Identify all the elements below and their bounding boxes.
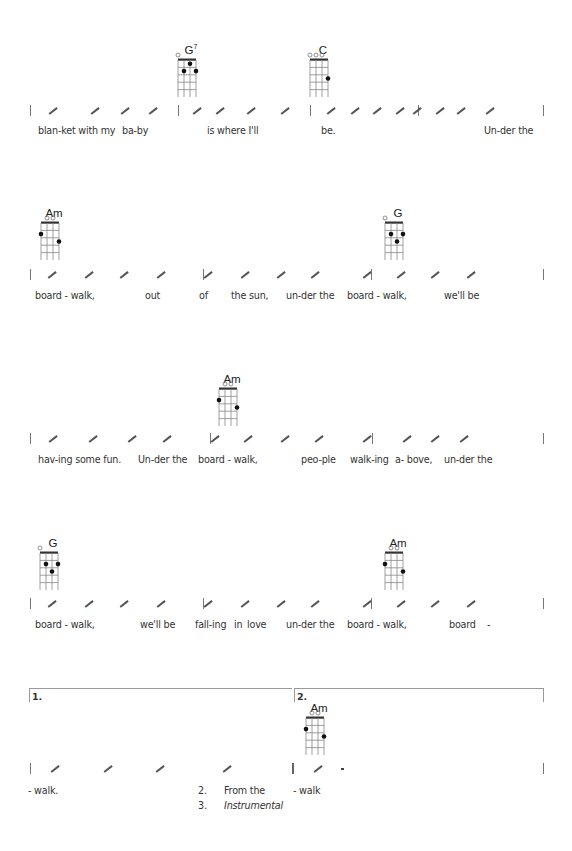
- bar-line: [30, 598, 31, 609]
- beat-slash: [431, 271, 440, 278]
- beat-slash: [436, 107, 445, 114]
- beat-slash: [211, 435, 220, 442]
- lyric-text: blan-ket with my: [38, 125, 115, 136]
- beat-slash: [128, 435, 137, 442]
- lyric-text: board - walk,: [35, 619, 95, 630]
- beat-slash: [457, 107, 466, 114]
- beat-slash: [403, 435, 412, 442]
- lyric-text: Un-der the: [484, 125, 533, 136]
- beat-slash: [397, 271, 406, 278]
- volta-number: 1.: [32, 691, 42, 702]
- lyric-text: fall-ing: [195, 619, 226, 630]
- lyric-text: Un-der the: [138, 454, 187, 465]
- volta-bracket: [294, 688, 543, 689]
- fretboard-icon: [302, 700, 338, 759]
- lyric-text: love: [247, 619, 266, 630]
- beat-slash: [157, 271, 166, 278]
- whole-rest: [341, 768, 344, 770]
- beat-slash: [396, 107, 405, 114]
- beat-slash: [413, 107, 422, 114]
- lyric-text: - walk: [293, 785, 320, 796]
- lyric-text: walk-ing: [350, 454, 389, 465]
- bar-line: [178, 105, 179, 116]
- lyric-text: we'll be: [140, 619, 175, 630]
- fretboard-icon: [306, 42, 342, 101]
- lyric-text: board - walk,: [347, 290, 407, 301]
- beat-slash: [157, 600, 166, 607]
- beat-slash: [247, 107, 256, 114]
- beat-slash: [460, 435, 469, 442]
- beat-slash: [48, 600, 57, 607]
- fretboard-icon: [36, 535, 72, 594]
- beat-slash: [120, 271, 129, 278]
- repeat-bar-line: [292, 763, 294, 774]
- bar-line: [30, 433, 31, 444]
- lyric-text: board - walk,: [347, 619, 407, 630]
- lyric-text: we'll be: [444, 290, 479, 301]
- beat-slash: [277, 271, 286, 278]
- beat-slash: [363, 435, 372, 442]
- fretboard-icon: [37, 205, 73, 264]
- beat-slash: [467, 600, 476, 607]
- beat-slash: [277, 600, 286, 607]
- beat-slash: [49, 107, 58, 114]
- bar-line: [543, 433, 544, 444]
- lyric-text: peo-ple: [301, 454, 336, 465]
- beat-slash: [311, 600, 320, 607]
- volta-bracket-edge: [543, 688, 544, 702]
- beat-slash: [48, 271, 57, 278]
- lyric-text: of: [199, 290, 208, 301]
- bar-line: [30, 269, 31, 280]
- bar-line: [372, 433, 373, 444]
- fretboard-icon: [381, 205, 417, 264]
- beat-slash: [397, 600, 406, 607]
- bar-line: [543, 105, 544, 116]
- lyric-text: - walk.: [28, 785, 58, 796]
- beat-slash: [431, 600, 440, 607]
- lyric-text: board - walk,: [198, 454, 258, 465]
- bar-line: [543, 269, 544, 280]
- beat-slash: [149, 107, 158, 114]
- lyric-text: a- bove,: [395, 454, 432, 465]
- beat-slash: [281, 435, 290, 442]
- beat-slash: [204, 600, 213, 607]
- lyric-text: ba-by: [122, 125, 148, 136]
- bar-line: [310, 105, 311, 116]
- beat-slash: [156, 765, 165, 772]
- lyric-text: -: [487, 619, 490, 630]
- lyric-text: un-der the: [444, 454, 492, 465]
- beat-slash: [467, 271, 476, 278]
- beat-slash: [85, 271, 94, 278]
- lyric-text: out: [145, 290, 160, 301]
- beat-slash: [244, 435, 253, 442]
- beat-slash: [216, 107, 225, 114]
- lyric-text: 2.: [198, 785, 207, 796]
- lyric-text: 3.: [198, 800, 207, 811]
- lyric-text: From the: [224, 785, 265, 796]
- bar-line: [543, 598, 544, 609]
- beat-slash: [486, 107, 495, 114]
- lyric-text: un-der the: [286, 619, 334, 630]
- beat-slash: [241, 271, 250, 278]
- lyric-text: hav-ing some fun.: [38, 454, 121, 465]
- lyric-text: be.: [321, 125, 335, 136]
- volta-bracket-edge: [29, 688, 30, 702]
- volta-bracket-edge: [294, 688, 295, 702]
- beat-slash: [373, 107, 382, 114]
- beat-slash: [49, 435, 58, 442]
- beat-slash: [204, 271, 213, 278]
- beat-slash: [223, 765, 232, 772]
- beat-slash: [327, 107, 336, 114]
- beat-slash: [121, 107, 130, 114]
- beat-slash: [281, 107, 290, 114]
- beat-slash: [193, 107, 202, 114]
- beat-slash: [351, 107, 360, 114]
- lyric-text: board: [449, 619, 476, 630]
- beat-slash: [91, 107, 100, 114]
- fretboard-icon: [174, 42, 210, 101]
- beat-slash: [241, 600, 250, 607]
- bar-line: [371, 269, 372, 280]
- beat-slash: [89, 435, 98, 442]
- beat-slash: [431, 435, 440, 442]
- lyric-text: Instrumental: [224, 800, 283, 811]
